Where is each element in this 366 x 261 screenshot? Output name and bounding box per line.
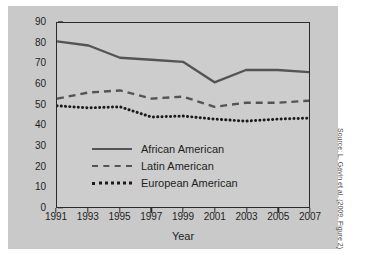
- series-line-latin-american: [57, 90, 309, 106]
- y-tick-label: 20: [35, 162, 46, 172]
- x-tick-label: 1999: [172, 212, 194, 222]
- legend-item-latin-american: Latin American: [92, 157, 238, 174]
- y-axis-title-container: Percentage: [12, 22, 34, 208]
- series-line-european-american: [57, 106, 309, 121]
- y-tick-label: 70: [35, 58, 46, 68]
- x-tick-mark: [55, 208, 56, 213]
- x-tick-mark: [278, 208, 279, 213]
- x-tick-label: 1997: [140, 212, 162, 222]
- x-tick-label: 2003: [235, 212, 257, 222]
- x-tick-label: 2007: [299, 212, 321, 222]
- x-tick-label: 2005: [267, 212, 289, 222]
- x-tick-mark: [246, 208, 247, 213]
- x-tick-label: 2001: [204, 212, 226, 222]
- legend-swatch-dotted-line-icon: [92, 177, 132, 189]
- x-axis-title: Year: [56, 230, 310, 242]
- y-tick-label: 80: [35, 38, 46, 48]
- chart-legend: African American Latin American European…: [92, 140, 238, 191]
- x-tick-mark: [151, 208, 152, 213]
- series-line-african-american: [57, 41, 309, 82]
- x-tick-mark: [87, 208, 88, 213]
- chart-figure: 0102030405060708090 Percentage 199119931…: [0, 0, 366, 261]
- legend-label: Latin American: [141, 160, 214, 172]
- x-tick-label: 1993: [77, 212, 99, 222]
- legend-label: European American: [141, 177, 238, 189]
- y-tick-label: 50: [35, 100, 46, 110]
- legend-item-african-american: African American: [92, 140, 238, 157]
- x-tick-label: 1995: [108, 212, 130, 222]
- x-tick-mark: [119, 208, 120, 213]
- y-tick-label: 60: [35, 79, 46, 89]
- legend-swatch-solid-line-icon: [92, 143, 132, 155]
- legend-swatch-dashed-line-icon: [92, 160, 132, 172]
- legend-item-european-american: European American: [92, 174, 238, 191]
- y-tick-label: 90: [35, 17, 46, 27]
- y-tick-label: 40: [35, 120, 46, 130]
- y-tick-label: 30: [35, 141, 46, 151]
- source-credit: Source: L. Gavin et al. (2009, Figure 2): [337, 128, 344, 249]
- y-tick-label: 10: [35, 182, 46, 192]
- x-tick-mark: [309, 208, 310, 213]
- x-tick-mark: [214, 208, 215, 213]
- legend-label: African American: [141, 143, 224, 155]
- x-tick-mark: [182, 208, 183, 213]
- x-tick-label: 1991: [45, 212, 67, 222]
